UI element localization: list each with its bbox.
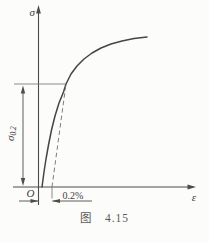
x-axis-arrowhead-icon [188,185,197,190]
offset-strain-label: 0.2% [63,190,84,201]
stress-strain-curve [42,37,147,187]
x-axis-label: ε [192,191,197,203]
yield-stress-label: σ0.2 [4,126,19,141]
y-axis-label: σ [30,6,36,18]
dimension-arrow-up-icon [21,86,25,94]
dimension-arrow-left-icon [52,199,60,203]
stress-strain-plot: σ ε O 0.2% σ0.2 [0,0,209,243]
origin-label: O [27,187,35,199]
yield-stress-subscript: 0.2 [9,126,18,136]
figure-caption: 图 4.15 [0,209,209,225]
figure-caption-number: 4.15 [105,212,129,224]
dimension-arrow-right-icon [31,199,39,203]
stress-strain-figure: σ ε O 0.2% σ0.2 图 4.15 [0,0,209,243]
y-axis-arrowhead-icon [36,5,41,14]
figure-caption-prefix: 图 [80,209,92,225]
offset-dashed-line [52,84,66,187]
dimension-arrow-down-icon [21,178,25,186]
